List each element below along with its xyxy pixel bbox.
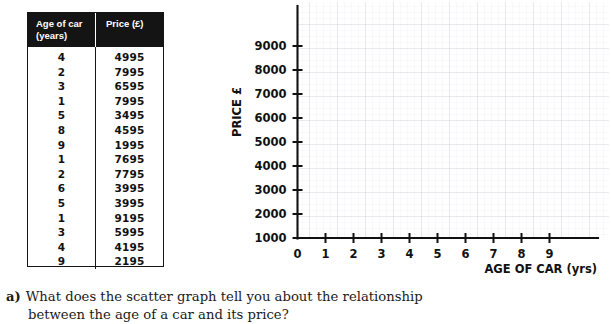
table-row: 44195 [28,240,163,255]
y-tick-label: 4000 [254,159,286,173]
x-tick-label: 6 [461,247,469,261]
y-tick-label: 5000 [254,135,286,149]
y-tick-label: 9000 [254,39,286,53]
car-price-data-table: Age of car (years) Price (£) 44995279953… [27,12,164,267]
column-header-price-line1: Price (£) [106,18,163,30]
cell-age: 3 [28,79,96,94]
table-row: 27995 [28,65,163,80]
cell-price: 3995 [96,196,164,211]
x-tick-label: 3 [377,247,385,261]
column-header-price: Price (£) [96,13,164,47]
question-label: a) [6,289,21,304]
cell-age: 5 [28,108,96,123]
cell-age: 4 [28,240,96,255]
cell-price: 1995 [96,138,164,153]
table-row: 92195 [28,254,163,269]
x-tick-label: 4 [405,247,413,261]
scatter-graph: 100020003000400050006000700080009000 012… [225,0,611,285]
cell-age: 6 [28,181,96,196]
y-tick-label: 6000 [254,111,286,125]
grid-background [297,2,609,238]
cell-price: 4995 [96,47,164,65]
x-tick-label: 7 [489,247,497,261]
cell-age: 8 [28,123,96,138]
cell-price: 3995 [96,181,164,196]
y-axis-title: PRICE £ [230,87,244,137]
x-axis-tick-labels: 0123456789 [293,247,553,261]
x-tick-label: 8 [517,247,525,261]
x-tick-label: 9 [545,247,553,261]
column-header-age: Age of car (years) [28,13,96,47]
table-row: 27795 [28,167,163,182]
table-row: 53495 [28,108,163,123]
y-tick-label: 2000 [254,207,286,221]
cell-age: 4 [28,47,96,65]
x-axis-title: AGE OF CAR (yrs) [484,262,597,276]
scatter-graph-svg: 100020003000400050006000700080009000 012… [225,0,611,285]
x-tick-label: 0 [293,247,301,261]
table: Age of car (years) Price (£) 44995279953… [28,13,163,269]
x-tick-label: 5 [433,247,441,261]
cell-price: 7995 [96,94,164,109]
table-body: 4499527995365951799553495845959199517695… [28,47,163,269]
table-row: 84595 [28,123,163,138]
table-row: 19195 [28,211,163,226]
y-tick-label: 7000 [254,87,286,101]
cell-price: 7995 [96,65,164,80]
cell-age: 9 [28,138,96,153]
cell-price: 4595 [96,123,164,138]
cell-age: 2 [28,65,96,80]
table-header-row: Age of car (years) Price (£) [28,13,163,47]
cell-age: 1 [28,152,96,167]
table-row: 35995 [28,225,163,240]
table-row: 36595 [28,79,163,94]
question-line-2: between the age of a car and its price? [28,306,606,323]
cell-price: 4195 [96,240,164,255]
x-tick-label: 2 [349,247,357,261]
y-tick-label: 1000 [254,231,286,245]
cell-age: 3 [28,225,96,240]
column-header-age-line2: (years) [36,30,95,42]
table-row: 63995 [28,181,163,196]
cell-age: 1 [28,94,96,109]
cell-price: 3495 [96,108,164,123]
y-axis-tick-labels: 100020003000400050006000700080009000 [254,39,286,245]
column-header-age-line1: Age of car [36,18,95,30]
table-row: 17995 [28,94,163,109]
cell-price: 9195 [96,211,164,226]
table-row: 17695 [28,152,163,167]
question-a: a)What does the scatter graph tell you a… [6,288,606,324]
table-header: Age of car (years) Price (£) [28,13,163,47]
cell-age: 5 [28,196,96,211]
cell-price: 5995 [96,225,164,240]
table-row: 44995 [28,47,163,65]
table-row: 91995 [28,138,163,153]
cell-price: 7795 [96,167,164,182]
cell-age: 9 [28,254,96,269]
cell-price: 2195 [96,254,164,269]
cell-price: 7695 [96,152,164,167]
cell-age: 1 [28,211,96,226]
table-row: 53995 [28,196,163,211]
cell-age: 2 [28,167,96,182]
y-tick-label: 8000 [254,63,286,77]
cell-price: 6595 [96,79,164,94]
question-line-1: What does the scatter graph tell you abo… [26,289,423,304]
y-tick-label: 3000 [254,183,286,197]
x-tick-label: 1 [321,247,329,261]
